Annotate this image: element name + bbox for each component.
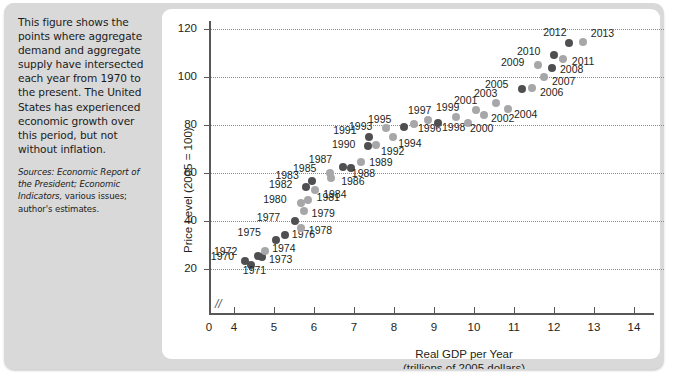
figure-card: This figure shows the points where aggre… <box>4 3 664 369</box>
data-point <box>480 111 488 119</box>
y-axis-tick <box>204 269 210 270</box>
y-axis-tick <box>204 125 210 126</box>
x-axis-tick <box>394 307 395 314</box>
data-point <box>472 106 480 114</box>
data-point-label: 2004 <box>514 108 537 120</box>
data-point-label: 1986 <box>341 175 364 187</box>
data-point-label: 1987 <box>309 153 332 165</box>
x-axis-tick-label: 13 <box>582 321 606 333</box>
data-point <box>327 174 335 182</box>
data-point <box>308 177 316 185</box>
gridline-y <box>209 29 664 30</box>
data-point-label: 1980 <box>263 193 286 205</box>
y-axis-tick-label: 60 <box>163 166 197 178</box>
data-point <box>339 163 347 171</box>
data-point <box>304 196 312 204</box>
x-axis-tick-label: 0 <box>197 321 221 333</box>
x-axis-tick-label: 10 <box>462 321 486 333</box>
x-axis-title-sub: (trillions of 2005 dollars) <box>344 362 584 370</box>
data-point <box>247 261 255 269</box>
data-point <box>579 38 587 46</box>
data-point <box>492 99 500 107</box>
data-point <box>534 61 542 69</box>
data-point-label: 1982 <box>269 178 292 190</box>
x-axis-tick <box>474 307 475 314</box>
y-axis-tick <box>204 29 210 30</box>
figure-root: This figure shows the points where aggre… <box>0 0 676 381</box>
gridline-y <box>209 77 664 78</box>
data-point-label: 1985 <box>293 162 316 174</box>
plot-panel: 20406080100120//04567891011121314Price L… <box>162 9 660 359</box>
data-point-label: 1974 <box>272 242 295 254</box>
x-axis-tick <box>434 307 435 314</box>
x-axis-tick-label: 8 <box>382 321 406 333</box>
data-point <box>241 257 249 265</box>
data-point-label: 1991 <box>333 124 356 136</box>
data-point <box>261 247 269 255</box>
data-point <box>389 133 397 141</box>
data-point <box>518 85 526 93</box>
caption-sources: Sources: Economic Report of the Presiden… <box>18 166 150 215</box>
data-point-label: 1970 <box>211 250 234 262</box>
data-point-label: 1972 <box>214 245 237 257</box>
gridline-y <box>209 173 664 174</box>
x-axis-tick-label: 11 <box>502 321 526 333</box>
x-axis-tick-label: 4 <box>222 321 246 333</box>
data-point-label: 2009 <box>501 56 524 68</box>
data-point <box>297 199 305 207</box>
data-point <box>540 73 548 81</box>
x-axis-tick <box>554 307 555 314</box>
x-axis-tick-label: 9 <box>422 321 446 333</box>
y-axis-tick <box>204 77 210 78</box>
gridline-y <box>209 269 664 270</box>
y-axis-tick-label: 40 <box>163 214 197 226</box>
data-point-label: 2001 <box>454 94 477 106</box>
data-point <box>364 142 372 150</box>
data-point-label: 1995 <box>368 113 391 125</box>
data-point <box>326 169 334 177</box>
y-axis-tick-label: 100 <box>163 70 197 82</box>
data-point-label: 2008 <box>560 63 583 75</box>
data-point <box>382 124 390 132</box>
data-point <box>254 252 262 260</box>
data-point <box>311 186 319 194</box>
x-axis-title: Real GDP per Year(trillions of 2005 doll… <box>344 348 584 369</box>
data-point <box>565 39 573 47</box>
data-point-label: 1997 <box>408 104 431 116</box>
x-axis-tick <box>354 307 355 314</box>
data-point-label: 1989 <box>369 156 392 168</box>
data-point <box>528 84 536 92</box>
gridline-y <box>209 221 664 222</box>
x-axis-tick <box>314 307 315 314</box>
x-axis-line <box>209 313 654 315</box>
data-point <box>424 116 432 124</box>
y-axis-tick <box>204 221 210 222</box>
data-point <box>400 123 408 131</box>
data-point-label: 1978 <box>309 224 332 236</box>
data-point <box>357 158 365 166</box>
x-axis-title-main: Real GDP per Year <box>344 348 584 362</box>
x-axis-tick <box>634 307 635 314</box>
x-axis-tick <box>274 307 275 314</box>
data-point <box>410 120 418 128</box>
data-point <box>302 183 310 191</box>
data-point-label: 2007 <box>552 75 575 87</box>
y-axis-title: Price Level (2005 = 100) <box>182 127 194 253</box>
data-point-label: 2003 <box>474 87 497 99</box>
x-axis-tick-label: 14 <box>622 321 646 333</box>
data-point-label: 2010 <box>517 45 540 57</box>
data-point <box>504 105 512 113</box>
data-point-label: 1984 <box>323 188 346 200</box>
data-point-label: 2011 <box>572 55 595 67</box>
data-point <box>347 164 355 172</box>
y-axis-tick-label: 20 <box>163 262 197 274</box>
data-point-label: 1977 <box>257 211 280 223</box>
data-point <box>300 207 308 215</box>
data-point <box>559 55 567 63</box>
data-point <box>272 236 280 244</box>
data-point <box>258 253 266 261</box>
y-axis-tick-label: 120 <box>163 22 197 34</box>
data-point <box>281 231 289 239</box>
data-point-label: 2000 <box>470 122 493 134</box>
data-point-label: 1992 <box>381 145 404 157</box>
